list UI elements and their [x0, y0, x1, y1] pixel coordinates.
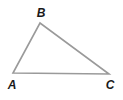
triangle-abc — [13, 23, 109, 74]
vertex-label-b: B — [37, 6, 46, 20]
vertex-label-a: A — [7, 78, 17, 92]
vertex-label-c: C — [106, 78, 115, 92]
triangle-diagram: A B C — [0, 0, 123, 100]
